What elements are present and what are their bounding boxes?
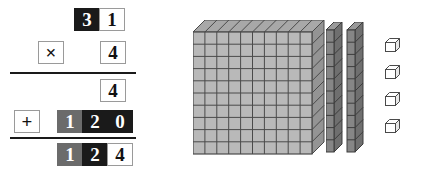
worksheet-canvas: 3 1 × 4 4 + 1 2 0 1 2 4 [0,0,422,178]
partial-tens-hundreds-digit: 1 [57,110,83,133]
unit-cube [385,92,401,111]
partial-ones-digit: 4 [100,79,126,102]
addition-rule [10,137,136,139]
partial-tens-ones-digit: 0 [107,110,133,133]
partial-product-tens-row: 1 2 0 [57,110,133,133]
ten-rods-svg [326,22,368,156]
add-operator-group: + [14,110,40,133]
unit-cubes-group [385,38,401,146]
ten-rod [347,22,363,152]
unit-cube [385,38,401,57]
unit-cube [385,65,401,84]
multiplier-row: × [38,41,64,64]
product-tens-digit: 2 [82,143,108,166]
hundred-flat-svg [193,20,325,156]
multiplier-ones-digit: 4 [100,41,126,64]
vertical-multiplication-problem: 3 1 × 4 4 + 1 2 0 1 2 4 [0,0,180,178]
ten-rod [326,22,342,152]
product-row: 1 2 4 [57,143,133,166]
multiplier-digit-group: 4 [100,41,126,64]
product-hundreds-digit: 1 [57,143,83,166]
add-operator: + [14,110,40,133]
multiplicand-ones-digit: 1 [99,8,125,31]
ten-rods-group [326,22,368,160]
product-ones-digit: 4 [107,143,133,166]
partial-tens-tens-digit: 2 [82,110,108,133]
unit-cube [385,119,401,138]
multiplicand-row: 3 1 [74,8,125,31]
multiply-operator: × [38,41,64,64]
multiplication-rule [10,72,136,74]
hundred-flat [193,20,325,160]
partial-product-ones-row: 4 [100,79,126,102]
base-ten-blocks-group [180,0,422,178]
multiplicand-tens-digit: 3 [74,8,100,31]
